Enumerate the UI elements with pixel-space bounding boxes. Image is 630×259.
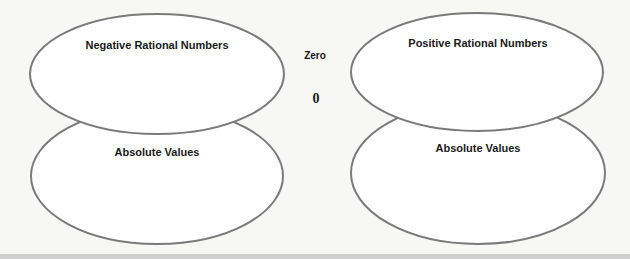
zero-label: Zero: [304, 50, 326, 61]
zero-value: 0: [313, 91, 320, 107]
left-absolute-values-label: Absolute Values: [115, 146, 200, 158]
right-absolute-values-label: Absolute Values: [436, 142, 521, 154]
negative-rational-numbers-label: Negative Rational Numbers: [85, 39, 228, 51]
bottom-border: [0, 254, 630, 259]
positive-rational-numbers-ellipse: [351, 13, 603, 131]
positive-rational-numbers-label: Positive Rational Numbers: [408, 37, 547, 49]
negative-rational-numbers-ellipse: [30, 14, 284, 134]
